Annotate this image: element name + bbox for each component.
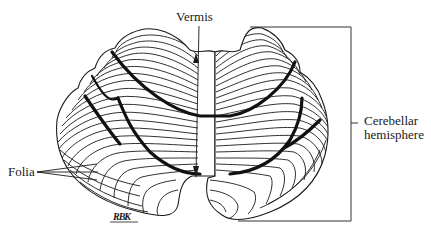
left-hemisphere: [57, 29, 215, 218]
vermis-label: Vermis: [176, 10, 213, 24]
cerebellar-hemisphere-label-line1: Cerebellar: [364, 114, 418, 128]
right-hemisphere: [207, 28, 330, 220]
folia-label: Folia: [8, 165, 35, 179]
cerebellar-hemisphere-label-line2: hemisphere: [364, 128, 424, 142]
signature: RBK: [113, 210, 130, 224]
